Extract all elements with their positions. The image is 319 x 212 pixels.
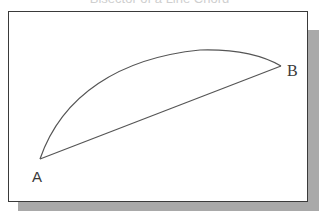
- arc-curve: [40, 50, 281, 159]
- point-label-b: B: [287, 63, 298, 79]
- arc-chord-drawing: [0, 0, 319, 212]
- chord-line: [40, 66, 281, 159]
- point-label-a: A: [32, 169, 42, 184]
